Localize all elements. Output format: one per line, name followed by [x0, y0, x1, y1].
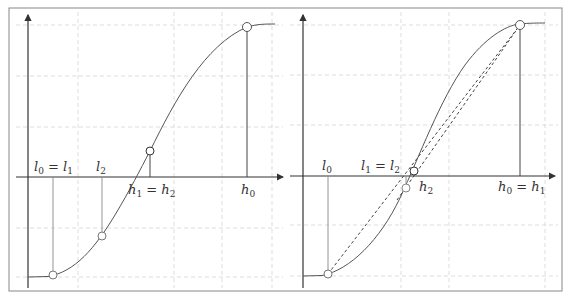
left-panel: l0 = l1 l2 h1 = h2 h0 — [16, 12, 283, 288]
right-point-h2 — [402, 184, 410, 192]
left-point-l2 — [98, 232, 106, 240]
label-l0-eq-l1: l0 = l1 — [34, 159, 73, 176]
right-point-h0 — [516, 21, 525, 30]
diagram: l0 = l1 l2 h1 = h2 h0 l0 l1 = l2 h2 — [0, 0, 568, 298]
label-h0: h0 — [241, 182, 255, 199]
label-h2-right: h2 — [419, 179, 433, 196]
right-point-l1 — [410, 167, 418, 175]
right-point-l0 — [324, 270, 332, 278]
secant-line-1 — [328, 25, 520, 274]
label-l1-eq-l2: l1 = l2 — [361, 158, 400, 175]
label-h0-eq-h1: h0 = h1 — [498, 179, 545, 196]
label-h1-eq-h2: h1 = h2 — [128, 182, 175, 199]
label-l0-right: l0 — [322, 158, 332, 175]
right-panel: l0 l1 = l2 h2 h0 = h1 — [290, 12, 558, 288]
label-l2: l2 — [96, 159, 106, 176]
right-curve — [303, 23, 545, 276]
left-point-h0 — [243, 23, 252, 32]
left-point-h1 — [146, 147, 154, 155]
left-point-l0 — [49, 271, 57, 279]
